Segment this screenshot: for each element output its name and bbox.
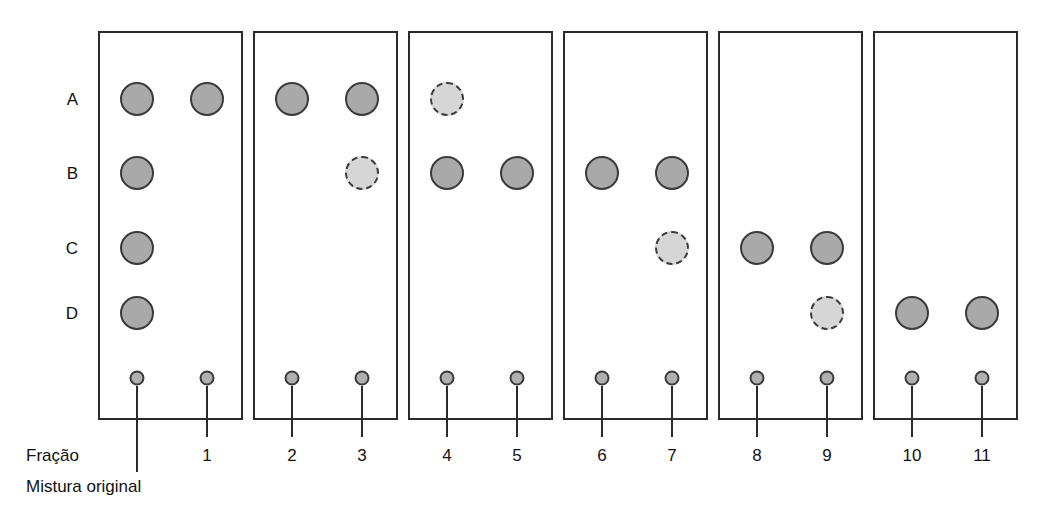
leader-line-lane-11 — [981, 386, 983, 438]
spot-solid-row-b-lane-mistura-original — [120, 156, 154, 190]
leader-line-lane-5 — [516, 386, 518, 438]
spot-dashed-row-d-lane-9 — [810, 296, 844, 330]
origin-spot-lane-2 — [285, 371, 300, 386]
spot-solid-row-c-lane-mistura-original — [120, 231, 154, 265]
spot-solid-row-a-lane-3 — [345, 82, 379, 116]
lane-number-3: 3 — [342, 447, 382, 464]
leader-line-lane-10 — [911, 386, 913, 438]
origin-spot-lane-1 — [200, 371, 215, 386]
origin-spot-lane-mistura-original — [130, 371, 145, 386]
spot-solid-row-b-lane-5 — [500, 156, 534, 190]
row-label-d: D — [48, 305, 78, 322]
origin-spot-lane-5 — [510, 371, 525, 386]
origin-spot-lane-6 — [595, 371, 610, 386]
origin-spot-lane-9 — [820, 371, 835, 386]
lane-number-11: 11 — [962, 447, 1002, 464]
row-label-a: A — [48, 91, 78, 108]
leader-line-lane-3 — [361, 386, 363, 438]
spot-dashed-row-b-lane-3 — [345, 156, 379, 190]
tlc-plate-panel-4 — [563, 31, 708, 420]
tlc-plate-panel-6 — [873, 31, 1018, 420]
caption-original-mixture: Mistura original — [26, 478, 141, 495]
lane-number-2: 2 — [272, 447, 312, 464]
lane-number-5: 5 — [497, 447, 537, 464]
tlc-plate-panel-3 — [408, 31, 553, 420]
leader-line-lane-2 — [291, 386, 293, 438]
spot-solid-row-b-lane-6 — [585, 156, 619, 190]
row-label-c: C — [48, 240, 78, 257]
leader-line-lane-1 — [206, 386, 208, 438]
lane-number-9: 9 — [807, 447, 847, 464]
origin-spot-lane-4 — [440, 371, 455, 386]
lane-number-10: 10 — [892, 447, 932, 464]
caption-fraction: Fração — [26, 447, 79, 464]
spot-solid-row-d-lane-mistura-original — [120, 296, 154, 330]
leader-line-lane-6 — [601, 386, 603, 438]
spot-solid-row-c-lane-8 — [740, 231, 774, 265]
lane-number-6: 6 — [582, 447, 622, 464]
spot-dashed-row-c-lane-7 — [655, 231, 689, 265]
lane-number-1: 1 — [187, 447, 227, 464]
spot-solid-row-d-lane-11 — [965, 296, 999, 330]
spot-solid-row-a-lane-2 — [275, 82, 309, 116]
spot-dashed-row-a-lane-4 — [430, 82, 464, 116]
tlc-plate-panel-5 — [718, 31, 863, 420]
origin-spot-lane-8 — [750, 371, 765, 386]
spot-solid-row-a-lane-mistura-original — [120, 82, 154, 116]
origin-spot-lane-3 — [355, 371, 370, 386]
origin-spot-lane-10 — [905, 371, 920, 386]
spot-solid-row-b-lane-7 — [655, 156, 689, 190]
origin-spot-lane-11 — [975, 371, 990, 386]
leader-line-lane-9 — [826, 386, 828, 438]
lane-number-8: 8 — [737, 447, 777, 464]
spot-solid-row-b-lane-4 — [430, 156, 464, 190]
row-label-b: B — [48, 165, 78, 182]
origin-spot-lane-7 — [665, 371, 680, 386]
leader-line-lane-8 — [756, 386, 758, 438]
leader-line-lane-mistura-original — [136, 386, 138, 473]
spot-solid-row-a-lane-1 — [190, 82, 224, 116]
tlc-chromatography-figure: ABCD1234567891011FraçãoMistura original — [0, 0, 1038, 519]
spot-solid-row-d-lane-10 — [895, 296, 929, 330]
spot-solid-row-c-lane-9 — [810, 231, 844, 265]
lane-number-4: 4 — [427, 447, 467, 464]
lane-number-7: 7 — [652, 447, 692, 464]
leader-line-lane-7 — [671, 386, 673, 438]
leader-line-lane-4 — [446, 386, 448, 438]
